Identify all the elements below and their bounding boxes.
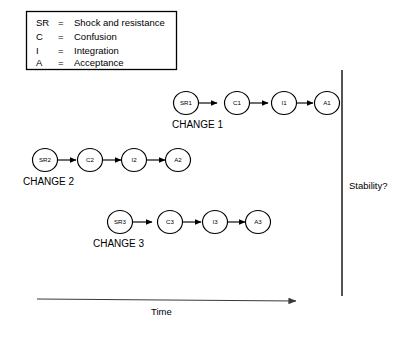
node-i3-label: I3 bbox=[212, 218, 218, 225]
node-a3[interactable]: A3 bbox=[246, 211, 271, 234]
legend-equals-i: = bbox=[58, 45, 64, 56]
time-axis-arrow bbox=[37, 299, 296, 301]
node-i1[interactable]: I1 bbox=[272, 92, 297, 115]
node-c2[interactable]: C2 bbox=[78, 149, 103, 172]
legend-equals-a: = bbox=[58, 57, 64, 68]
legend-key-sr: SR bbox=[36, 17, 49, 28]
stability-axis-label: Stability? bbox=[349, 180, 388, 191]
change-1-label: CHANGE 1 bbox=[172, 119, 224, 130]
node-a2-label: A2 bbox=[174, 156, 182, 163]
legend-equals-sr: = bbox=[58, 17, 64, 28]
node-sr2[interactable]: SR2 bbox=[33, 149, 58, 172]
legend-desc-c: Confusion bbox=[74, 31, 117, 42]
node-a1[interactable]: A1 bbox=[315, 92, 340, 115]
node-sr2-label: SR2 bbox=[39, 156, 52, 163]
node-sr1[interactable]: SR1 bbox=[174, 92, 199, 115]
diagram-canvas: SR = Shock and resistance C = Confusion … bbox=[0, 0, 405, 350]
node-i2[interactable]: I2 bbox=[122, 149, 147, 172]
node-sr1-label: SR1 bbox=[180, 99, 193, 106]
node-a3-label: A3 bbox=[254, 218, 262, 225]
node-c3[interactable]: C3 bbox=[158, 211, 183, 234]
node-i3[interactable]: I3 bbox=[203, 211, 228, 234]
change-row-1: SR1 C1 I1 A1 CHANGE 1 bbox=[172, 92, 340, 131]
change-process-diagram: SR = Shock and resistance C = Confusion … bbox=[0, 0, 405, 350]
node-a2[interactable]: A2 bbox=[166, 149, 191, 172]
stability-axis: Stability? bbox=[342, 70, 388, 296]
time-axis-label: Time bbox=[151, 306, 172, 317]
node-c1[interactable]: C1 bbox=[225, 92, 250, 115]
change-row-2: SR2 C2 I2 A2 CHANGE 2 bbox=[23, 149, 191, 188]
legend-key-a: A bbox=[36, 57, 43, 68]
time-axis: Time bbox=[37, 299, 296, 317]
node-c3-label: C3 bbox=[166, 218, 174, 225]
node-c1-label: C1 bbox=[233, 99, 241, 106]
node-c2-label: C2 bbox=[86, 156, 94, 163]
node-i1-label: I1 bbox=[281, 99, 287, 106]
node-sr3[interactable]: SR3 bbox=[108, 211, 133, 234]
node-a1-label: A1 bbox=[323, 99, 331, 106]
legend-key-c: C bbox=[36, 31, 43, 42]
abbreviation-legend: SR = Shock and resistance C = Confusion … bbox=[27, 12, 177, 70]
legend-desc-sr: Shock and resistance bbox=[74, 17, 165, 28]
legend-desc-a: Acceptance bbox=[74, 57, 124, 68]
legend-equals-c: = bbox=[58, 31, 64, 42]
change-row-3: SR3 C3 I3 A3 CHANGE 3 bbox=[93, 211, 271, 250]
node-sr3-label: SR3 bbox=[114, 218, 127, 225]
change-2-label: CHANGE 2 bbox=[23, 176, 75, 187]
change-3-label: CHANGE 3 bbox=[93, 238, 145, 249]
legend-key-i: I bbox=[36, 45, 39, 56]
legend-desc-i: Integration bbox=[74, 45, 119, 56]
node-i2-label: I2 bbox=[131, 156, 137, 163]
